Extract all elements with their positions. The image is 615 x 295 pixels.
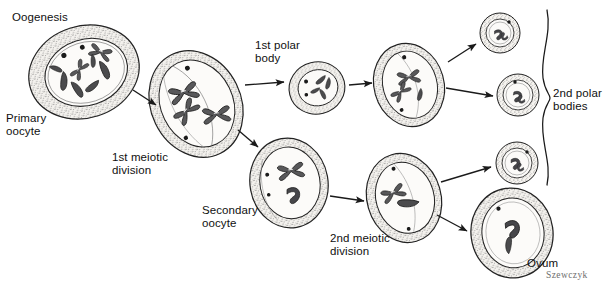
label-ovum: Ovum — [527, 257, 558, 270]
label-second-meiotic-division: 2nd meiotic division — [330, 232, 390, 258]
page-title: Oogenesis — [12, 11, 68, 24]
second-polar-body-right — [496, 142, 538, 184]
arrow-first-meiotic-to-secondary — [238, 130, 258, 147]
arrow-secondary-to-second-meiotic — [330, 196, 364, 201]
label-primary-oocyte: Primary oocyte — [6, 112, 46, 138]
second-polar-body-lower — [497, 74, 539, 116]
arrow-second-meiotic-to-ovum — [437, 215, 467, 231]
arrow-second-meiotic-to-right-pb — [441, 167, 491, 182]
oogenesis-diagram: Oogenesis Primary oocyte 1st meiotic div… — [0, 0, 615, 295]
arrow-first-meiotic-to-polar — [245, 82, 284, 85]
arrow-polar-to-post-polar — [349, 83, 372, 85]
label-first-polar-body: 1st polar body — [255, 39, 300, 65]
diagram-artwork — [0, 0, 615, 295]
label-secondary-oocyte: Secondary oocyte — [202, 204, 258, 230]
first-polar-body-cell — [284, 56, 351, 120]
label-second-polar-bodies: 2nd polar bodies — [553, 87, 602, 113]
second-polar-bodies-bracket — [543, 10, 550, 185]
artist-signature: Szewczyk — [546, 270, 588, 280]
label-first-meiotic-division: 1st meiotic division — [112, 151, 168, 177]
post-first-polar-division-cell — [364, 35, 454, 135]
arrow-post-polar-to-lower-pb — [446, 88, 493, 96]
second-polar-body-upper — [480, 13, 520, 53]
arrow-post-polar-to-upper-pb — [448, 44, 476, 62]
